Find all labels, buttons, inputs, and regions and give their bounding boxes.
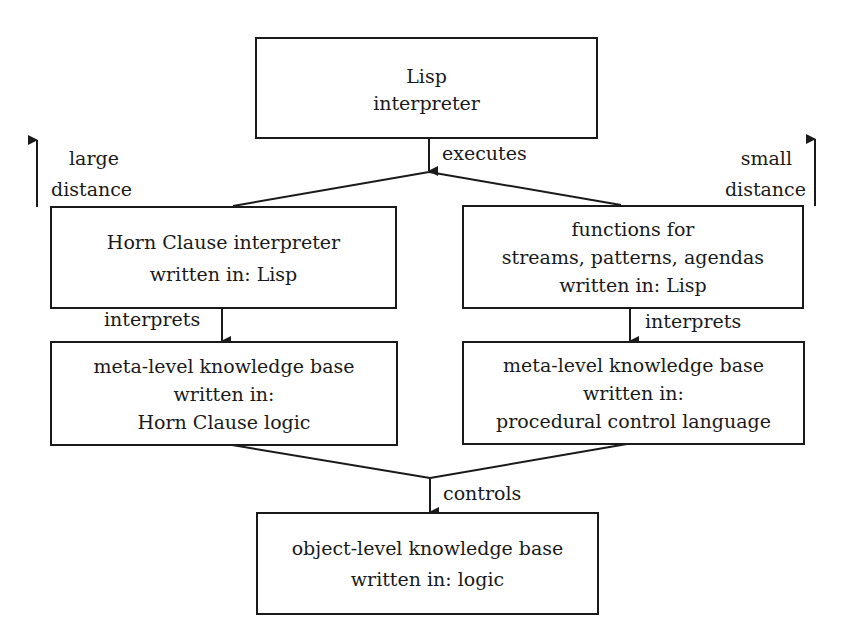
controls-label: controls <box>443 482 521 504</box>
node-text: meta-level knowledge base <box>503 351 764 379</box>
interprets-left-label: interprets <box>104 308 200 330</box>
meta-level-procedural-box: meta-level knowledge base written in: pr… <box>462 341 805 445</box>
small-distance-label: small distance <box>710 143 806 205</box>
node-text: written in: Lisp <box>559 271 707 299</box>
functions-box: functions for streams, patterns, agendas… <box>462 205 804 309</box>
side-label-text: large <box>51 143 132 174</box>
side-label-text: distance <box>710 174 806 205</box>
fanin-left-line <box>232 445 430 478</box>
node-text: Lisp <box>406 63 447 90</box>
node-text: functions for <box>572 215 695 243</box>
node-text: object-level knowledge base <box>292 533 564 564</box>
node-text: written in: Lisp <box>150 258 298 290</box>
side-label-text: small <box>710 143 806 174</box>
fan-right-line <box>429 172 621 205</box>
node-text: written in: <box>174 380 275 408</box>
node-text: streams, patterns, agendas <box>502 243 764 271</box>
node-text: written in: <box>583 379 684 407</box>
interprets-right-label: interprets <box>645 310 741 332</box>
node-text: procedural control language <box>496 407 771 435</box>
fan-left-line <box>233 172 429 206</box>
node-text: Horn Clause interpreter <box>107 226 340 258</box>
node-text: Horn Clause logic <box>138 408 311 436</box>
executes-label: executes <box>442 142 527 164</box>
lisp-interpreter-box: Lisp interpreter <box>255 37 598 139</box>
node-text: interpreter <box>373 90 480 117</box>
node-text: written in: logic <box>351 564 504 595</box>
large-distance-label: large distance <box>51 143 132 205</box>
object-level-box: object-level knowledge base written in: … <box>256 512 599 615</box>
node-text: meta-level knowledge base <box>94 352 355 380</box>
meta-level-horn-box: meta-level knowledge base written in: Ho… <box>50 341 398 446</box>
fanin-right-line <box>430 444 627 478</box>
horn-clause-interpreter-box: Horn Clause interpreter written in: Lisp <box>50 206 397 309</box>
side-label-text: distance <box>51 174 132 205</box>
